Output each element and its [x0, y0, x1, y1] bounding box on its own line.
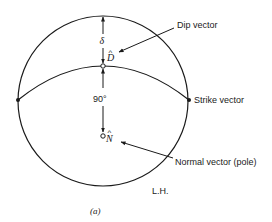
strike-vector-label: Strike vector — [194, 95, 244, 105]
dip-vector-hat: ^ — [109, 48, 113, 57]
dip-vector-point — [101, 64, 105, 68]
hemisphere-label: L.H. — [152, 186, 169, 196]
stereonet-diagram: δ 90° D ^ N ^ Dip vector Strike vector N… — [0, 0, 272, 222]
dip-angle-label: δ — [100, 35, 105, 46]
normal-vector-label: Normal vector (pole) — [175, 157, 257, 167]
normal-vector-point — [101, 134, 105, 138]
normal-vector-hat: ^ — [108, 128, 112, 137]
strike-point-right — [187, 98, 191, 102]
dip-vector-leader — [119, 28, 174, 52]
figure-caption: (a) — [90, 206, 101, 216]
normal-vector-leader — [121, 142, 173, 158]
strike-point-left — [16, 98, 20, 102]
dip-vector-label: Dip vector — [177, 20, 218, 30]
right-angle-label: 90° — [93, 94, 107, 104]
